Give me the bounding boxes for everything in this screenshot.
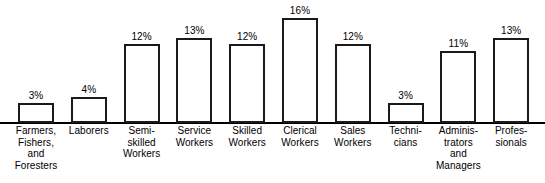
bar-value-label: 12% — [114, 31, 170, 42]
category-label-line: Workers — [111, 148, 173, 160]
plot-area: 3%4%12%13%12%16%12%3%11%13% — [0, 0, 545, 124]
bar-value-label: 13% — [483, 25, 539, 36]
bar — [493, 38, 529, 123]
bar-value-label: 4% — [61, 84, 117, 95]
category-label-line: Managers — [427, 160, 489, 172]
bar — [124, 44, 160, 123]
category-label: Profes-sionals — [480, 125, 542, 148]
bar — [18, 103, 54, 123]
category-label-line: Profes- — [480, 125, 542, 137]
category-label-line: and — [5, 148, 67, 160]
bar-value-label: 16% — [272, 5, 328, 16]
bar — [176, 38, 212, 123]
bar — [335, 44, 371, 123]
bar-value-label: 3% — [378, 90, 434, 101]
bar-value-label: 13% — [166, 25, 222, 36]
category-label-line: sionals — [480, 137, 542, 149]
bar-value-label: 12% — [219, 31, 275, 42]
bar-chart: 3%4%12%13%12%16%12%3%11%13% Farmers,Fish… — [0, 0, 545, 183]
bar-value-label: 11% — [430, 38, 486, 49]
category-labels-layer: Farmers,Fishers,andForestersLaborersSemi… — [0, 125, 545, 183]
category-label-line: Foresters — [5, 160, 67, 172]
bar-value-label: 12% — [325, 31, 381, 42]
bar — [71, 97, 107, 123]
category-label-line: and — [427, 148, 489, 160]
category-label-line: Fishers, — [5, 137, 67, 149]
bar — [282, 18, 318, 123]
bar — [229, 44, 265, 123]
bar-value-label: 3% — [8, 90, 64, 101]
bar — [388, 103, 424, 123]
bar — [440, 51, 476, 123]
